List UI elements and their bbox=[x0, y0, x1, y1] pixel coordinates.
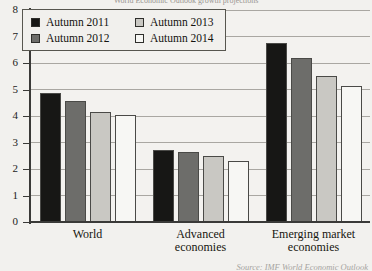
legend-label: Autumn 2012 bbox=[46, 32, 110, 44]
legend-entry-autumn-2014: Autumn 2014 bbox=[135, 32, 214, 44]
y-axis-tick bbox=[23, 116, 30, 117]
y-axis-tick-label: 6 bbox=[2, 57, 18, 68]
bar bbox=[203, 156, 224, 222]
source-note-text: Source: IMF World Economic Outlook bbox=[236, 264, 368, 271]
x-axis-category-label: World bbox=[31, 228, 144, 241]
y-axis-tick bbox=[23, 143, 30, 144]
gridline bbox=[31, 63, 370, 64]
clipped-chart-title-text: World Economic Outlook growth projection… bbox=[114, 0, 259, 5]
legend-entry-autumn-2013: Autumn 2013 bbox=[135, 16, 214, 28]
bar bbox=[115, 115, 136, 222]
x-axis-category-label-line: economies bbox=[144, 241, 257, 254]
y-axis-tick-label: 2 bbox=[2, 163, 18, 174]
bar bbox=[316, 76, 337, 222]
legend-label: Autumn 2011 bbox=[46, 16, 109, 28]
legend-row: Autumn 2011 Autumn 2013 bbox=[31, 14, 219, 30]
legend-swatch-icon bbox=[31, 18, 40, 27]
y-axis-tick-label: 7 bbox=[2, 31, 18, 42]
y-axis-tick bbox=[23, 63, 30, 64]
y-axis-tick-label: 0 bbox=[2, 216, 18, 227]
legend-swatch-icon bbox=[31, 34, 40, 43]
y-axis-tick-label: 3 bbox=[2, 137, 18, 148]
bar bbox=[266, 43, 287, 222]
legend-entry-autumn-2011: Autumn 2011 bbox=[31, 16, 135, 28]
legend-swatch-icon bbox=[135, 18, 144, 27]
y-axis-tick bbox=[23, 222, 30, 223]
clipped-chart-title: World Economic Outlook growth projection… bbox=[0, 0, 372, 6]
legend-label: Autumn 2013 bbox=[150, 16, 214, 28]
y-axis-tick-label: 1 bbox=[2, 190, 18, 201]
y-axis-tick-label: 4 bbox=[2, 110, 18, 121]
bar bbox=[153, 150, 174, 222]
legend-label: Autumn 2014 bbox=[150, 32, 214, 44]
x-axis-category-label-line: economies bbox=[257, 241, 370, 254]
chart-legend: Autumn 2011 Autumn 2013 Autumn 2012 Autu… bbox=[22, 9, 226, 51]
y-axis-tick bbox=[23, 196, 30, 197]
y-axis-tick bbox=[23, 90, 30, 91]
source-note: Source: IMF World Economic Outlook bbox=[0, 264, 372, 271]
x-axis-line bbox=[29, 221, 370, 223]
bar bbox=[40, 93, 61, 222]
bar-chart-figure: World Economic Outlook growth projection… bbox=[0, 0, 372, 271]
y-axis-tick-label: 5 bbox=[2, 84, 18, 95]
legend-entry-autumn-2012: Autumn 2012 bbox=[31, 32, 135, 44]
y-axis-tick-label: 8 bbox=[2, 4, 18, 15]
bar bbox=[65, 101, 86, 222]
y-axis-tick bbox=[23, 169, 30, 170]
x-axis-category-label-line: World bbox=[31, 228, 144, 241]
bar bbox=[291, 58, 312, 222]
bar bbox=[178, 152, 199, 222]
x-axis-category-label: Advancedeconomies bbox=[144, 228, 257, 254]
bar bbox=[90, 112, 111, 222]
x-axis-category-label: Emerging marketeconomies bbox=[257, 228, 370, 254]
bar bbox=[341, 86, 362, 222]
legend-swatch-icon bbox=[135, 34, 144, 43]
legend-row: Autumn 2012 Autumn 2014 bbox=[31, 30, 219, 46]
bar bbox=[228, 161, 249, 222]
